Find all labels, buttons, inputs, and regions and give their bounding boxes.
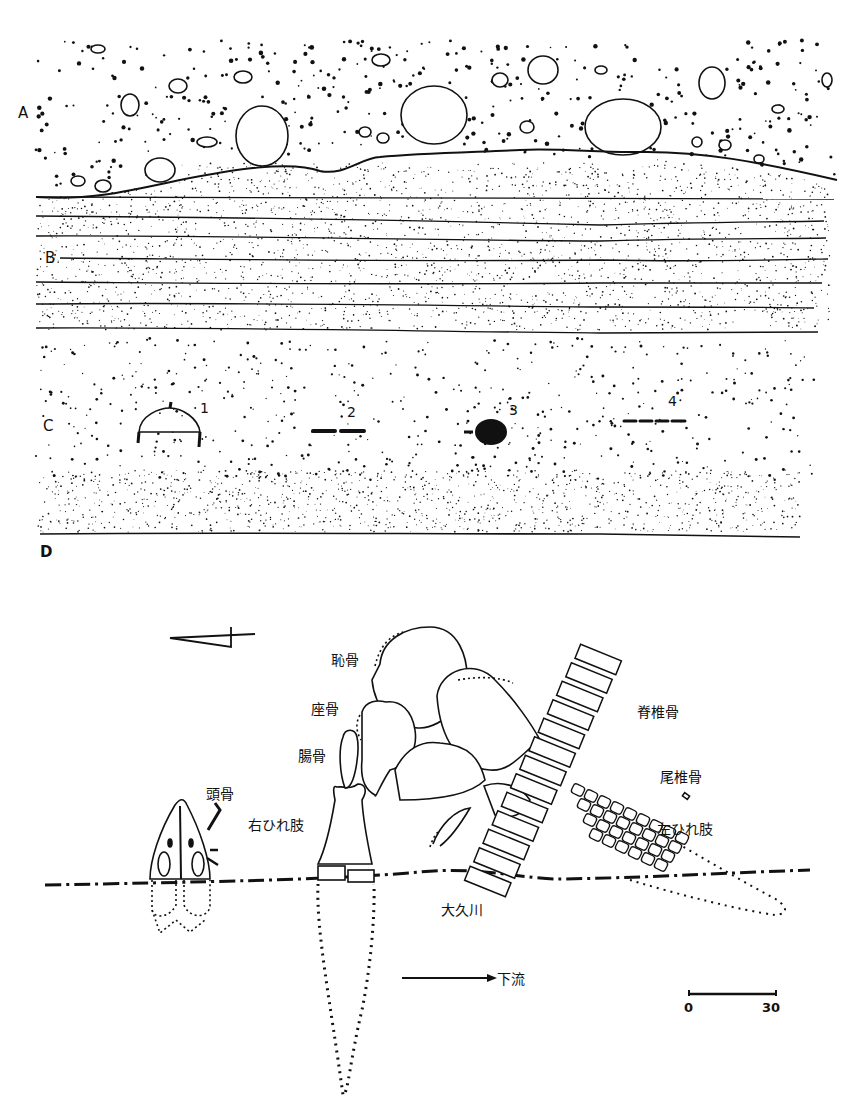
stipple-dot [138, 230, 139, 231]
stipple-dot [343, 318, 345, 320]
stipple-dot [677, 235, 678, 236]
specimen-label-3: 3 [509, 402, 518, 418]
stipple-dot [369, 188, 371, 190]
stipple-dot [415, 453, 417, 455]
stipple-dot [157, 515, 158, 516]
stipple-dot [760, 204, 761, 205]
stipple-dot [313, 164, 314, 165]
stipple-dot [758, 491, 759, 492]
stipple-dot [487, 504, 489, 506]
stipple-dot [190, 487, 192, 489]
stipple-dot [701, 185, 703, 187]
stipple-dot [471, 247, 472, 248]
stipple-dot [353, 293, 354, 294]
stipple-dot [251, 182, 253, 184]
stipple-dot [427, 265, 429, 267]
stipple-dot [215, 319, 216, 320]
stipple-dot [558, 309, 559, 310]
stipple-dot [182, 311, 184, 313]
stipple-dot [319, 521, 320, 522]
stipple-dot [89, 509, 90, 510]
stipple-dot [218, 290, 220, 292]
stipple-dot [244, 316, 245, 317]
stipple-dot [570, 475, 571, 476]
stipple-dot [537, 169, 538, 170]
stipple-dot [114, 512, 115, 513]
stipple-dot [634, 175, 635, 176]
stipple-dot [554, 502, 556, 504]
stipple-dot [35, 455, 37, 457]
stipple-dot [752, 480, 754, 482]
stipple-dot [386, 247, 387, 248]
stipple-dot [216, 203, 218, 205]
stipple-dot [254, 457, 257, 460]
stipple-dot [717, 180, 718, 181]
stipple-dot [154, 446, 156, 448]
stipple-dot [683, 193, 684, 194]
stipple-dot [38, 228, 40, 230]
stipple-dot [617, 184, 618, 185]
stipple-dot [714, 214, 716, 216]
stipple-dot [666, 269, 667, 270]
stipple-dot [358, 490, 359, 491]
stipple-dot [456, 464, 459, 467]
stipple-dot [401, 135, 404, 138]
stipple-dot [232, 172, 234, 174]
stipple-dot [143, 512, 144, 513]
stipple-dot [569, 257, 571, 259]
stipple-dot [423, 68, 425, 70]
stipple-dot [445, 408, 448, 411]
stipple-dot [179, 205, 180, 206]
stipple-dot [588, 200, 589, 201]
stipple-dot [176, 293, 177, 294]
stipple-dot [787, 128, 792, 133]
stipple-dot [369, 479, 370, 480]
stipple-dot [516, 502, 517, 503]
stipple-dot [390, 373, 392, 375]
stipple-dot [72, 491, 73, 492]
stipple-dot [725, 129, 729, 133]
stipple-dot [339, 301, 341, 303]
stipple-dot [483, 467, 486, 470]
stipple-dot [749, 475, 750, 476]
stipple-dot [572, 266, 573, 267]
stipple-dot [339, 501, 340, 502]
stipple-dot [246, 498, 247, 499]
stipple-dot [286, 322, 287, 323]
stipple-dot [563, 313, 564, 314]
stipple-dot [762, 511, 763, 512]
stipple-dot [493, 339, 496, 342]
stipple-dot [93, 517, 94, 518]
stipple-dot [371, 293, 373, 295]
specimen-label-1: 1 [200, 400, 209, 416]
stipple-dot [148, 243, 149, 244]
stipple-dot [269, 180, 270, 181]
stipple-dot [147, 150, 149, 152]
stipple-dot [182, 96, 186, 100]
stipple-dot [173, 504, 175, 506]
stipple-dot [197, 209, 198, 210]
stipple-dot [155, 87, 157, 89]
stipple-dot [539, 253, 540, 254]
stipple-dot [407, 275, 408, 276]
stipple-dot [491, 113, 495, 117]
stipple-dot [790, 353, 792, 355]
stipple-dot [68, 423, 70, 425]
stipple-dot [696, 178, 697, 179]
stipple-dot [92, 524, 93, 525]
stipple-dot [37, 106, 42, 111]
stipple-dot [39, 482, 40, 483]
stipple-dot [765, 482, 766, 483]
stipple-dot [205, 321, 207, 323]
stipple-dot [514, 323, 516, 325]
stipple-dot [519, 190, 520, 191]
stipple-dot [426, 293, 427, 294]
stipple-dot [782, 510, 783, 511]
stipple-dot [697, 522, 698, 523]
stipple-dot [687, 272, 688, 273]
stipple-dot [803, 309, 805, 311]
stipple-dot [691, 122, 694, 125]
stipple-dot [94, 284, 95, 285]
stipple-dot [175, 269, 176, 270]
stipple-dot [359, 474, 361, 476]
